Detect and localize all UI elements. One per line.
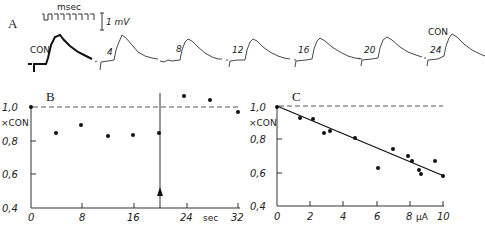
data-point [275, 105, 279, 109]
trace-8 [160, 39, 222, 62]
panel-b-ytick-0.8: 0,8 [2, 136, 18, 147]
panel-c-xlabel: µA [416, 212, 429, 222]
panel-b-axes [31, 107, 240, 208]
panel-c-xtick-0: 0 [274, 211, 280, 222]
data-point [208, 98, 212, 102]
panel-b-xtick-0: 0 [28, 212, 34, 223]
panel-c-ytick-0.4: 0,4 [250, 201, 266, 212]
time-calibration-marker [42, 14, 94, 20]
voltage-calibration-bar [100, 13, 104, 30]
panel-c-xtick-6: 6 [374, 211, 380, 222]
panel-c-xtick-4: 4 [340, 211, 346, 222]
data-point [29, 105, 33, 109]
panel-b-xtick-24: 24 [180, 212, 193, 223]
trace-label-20: 20 [364, 45, 376, 55]
trace-label-24: 24 [430, 45, 442, 55]
panel-b-ytick-1.0: 1,0 [2, 102, 18, 113]
panel-a-label: A [8, 16, 18, 31]
data-point [328, 129, 332, 133]
trace-label-con: CON [30, 45, 50, 55]
panel-c-label: C [292, 89, 301, 104]
data-point [441, 174, 445, 178]
panel-c: C 1,0 ×CON 0,8 0,6 0,4 0 2 4 6 8 µA 10 [249, 89, 450, 222]
data-point [54, 131, 58, 135]
panel-c-xtick-10: 10 [437, 211, 450, 222]
data-point [182, 94, 186, 98]
voltage-calibration-label: 1 mV [106, 17, 130, 27]
panel-b-xtick-32: 32 [231, 212, 244, 223]
panel-c-axes [277, 107, 444, 206]
panel-a: A msec 1 mV CON 4 8 12 16 20 CON 24 [8, 2, 485, 72]
trace-label-4: 4 [107, 47, 113, 57]
data-point [131, 133, 135, 137]
panel-b-ytick-0.4: 0,4 [2, 203, 18, 214]
panel-b-label: B [46, 89, 55, 104]
data-point [311, 117, 315, 121]
data-point [417, 168, 421, 172]
panel-b-xlabel: sec [203, 213, 218, 223]
panel-b-xtick-8: 8 [79, 212, 85, 223]
data-point [376, 166, 380, 170]
trace-label-con-return: CON [428, 27, 448, 37]
panel-b-arrow-icon [157, 187, 163, 196]
data-point [391, 147, 395, 151]
panel-c-xtick-8: 8 [406, 211, 412, 222]
trace-4 [95, 35, 158, 70]
panel-c-ylabel: ×CON [249, 118, 277, 128]
panel-b-ytick-0.6: 0,6 [2, 169, 18, 180]
data-point [410, 159, 414, 163]
figure: A msec 1 mV CON 4 8 12 16 20 CON 24 B [0, 0, 485, 227]
panel-b-y-ticks [31, 141, 36, 174]
trace-label-12: 12 [232, 45, 244, 55]
data-point [79, 123, 83, 127]
panel-c-x-ticks [310, 201, 443, 206]
panel-b-ylabel: ×CON [1, 118, 29, 128]
panel-b: B 1,0 ×CON 0,8 0,6 0,4 0 8 16 24 sec 32 [1, 89, 244, 223]
data-point [236, 110, 240, 114]
panel-c-ytick-0.6: 0,6 [250, 168, 266, 179]
trace-label-16: 16 [298, 45, 310, 55]
panel-b-xtick-16: 16 [127, 212, 140, 223]
data-point [106, 134, 110, 138]
panel-c-ytick-0.8: 0,8 [250, 134, 266, 145]
panel-c-y-ticks [277, 139, 282, 173]
data-point [157, 131, 161, 135]
time-calibration-label: msec [57, 2, 81, 12]
panel-b-points [29, 94, 240, 138]
panel-c-fit-line [277, 106, 444, 176]
data-point [406, 154, 410, 158]
data-point [419, 172, 423, 176]
panel-c-xtick-2: 2 [307, 211, 313, 222]
data-point [298, 116, 302, 120]
data-point [353, 136, 357, 140]
data-point [322, 131, 326, 135]
panel-c-ytick-1.0: 1,0 [250, 102, 266, 113]
data-point [433, 159, 437, 163]
